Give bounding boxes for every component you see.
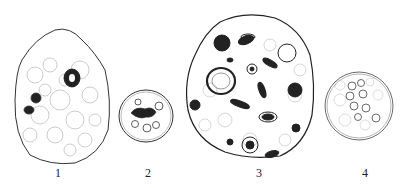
cell-4 (325, 72, 393, 140)
figure-canvas (0, 0, 406, 188)
panel-label-1: 1 (48, 166, 68, 181)
cell-1 (15, 29, 110, 164)
panel-label-2: 2 (138, 166, 158, 181)
panel-label-4: 4 (355, 166, 375, 181)
cell-2 (119, 90, 173, 142)
cell-3 (187, 15, 314, 159)
panel-label-3: 3 (249, 166, 269, 181)
